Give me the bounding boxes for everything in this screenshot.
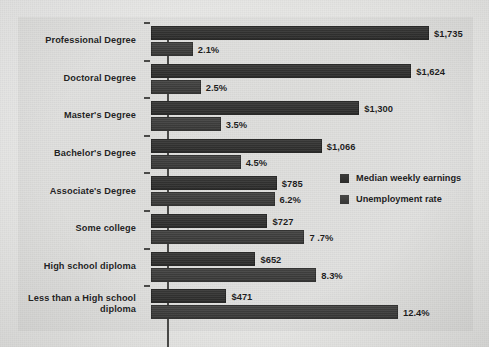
legend-swatch-icon-earnings [340, 174, 349, 183]
legend-item-unemployment-rate[interactable]: Unemployment rate [340, 194, 461, 204]
bar-median-weekly-earnings [151, 64, 411, 78]
bar-value-label-unemployment: 2.1% [198, 44, 219, 55]
chart-legend: Median weekly earnings Unemployment rate [340, 173, 461, 215]
bar-value-label-unemployment: 12.4% [403, 307, 430, 318]
axis-tick [144, 285, 150, 287]
bar-value-label-earnings: $1,066 [327, 141, 356, 152]
bar-value-label-unemployment: 6.2% [280, 194, 301, 205]
axis-tick [144, 135, 150, 137]
bar-unemployment-rate [151, 42, 193, 56]
bar-median-weekly-earnings [151, 252, 255, 266]
legend-swatch-icon-unemployment [340, 195, 349, 204]
bar-value-label-unemployment: 4.5% [246, 157, 267, 168]
axis-tick [144, 60, 150, 62]
legend-label-unemployment: Unemployment rate [356, 194, 442, 204]
axis-tick [144, 210, 150, 212]
bar-median-weekly-earnings [151, 101, 359, 115]
bar-unemployment-rate [151, 192, 275, 206]
bar-median-weekly-earnings [151, 139, 322, 153]
bar-value-label-earnings: $1,735 [434, 28, 463, 39]
bar-value-label-unemployment: 8.3% [321, 270, 342, 281]
category-label: Professional Degree [10, 35, 136, 47]
bar-value-label-unemployment: 3.5% [226, 119, 247, 130]
bar-unemployment-rate [151, 80, 201, 94]
bar-value-label-earnings: $1,624 [416, 66, 445, 77]
category-label: Doctoral Degree [10, 73, 136, 85]
bar-unemployment-rate [151, 230, 304, 244]
legend-label-earnings: Median weekly earnings [356, 173, 461, 183]
legend-item-median-weekly-earnings[interactable]: Median weekly earnings [340, 173, 461, 183]
category-label: Associate's Degree [10, 186, 136, 198]
bar-value-label-unemployment: 2.5% [206, 82, 227, 93]
bar-value-label-earnings: $471 [231, 291, 252, 302]
axis-tick [144, 172, 150, 174]
bar-median-weekly-earnings [151, 289, 226, 303]
bar-value-label-earnings: $1,300 [364, 103, 393, 114]
bar-unemployment-rate [151, 268, 316, 282]
bar-value-label-earnings: $652 [260, 254, 281, 265]
bar-unemployment-rate [151, 155, 241, 169]
category-label: Bachelor's Degree [10, 148, 136, 160]
category-label: Master's Degree [10, 110, 136, 122]
category-label: Some college [10, 223, 136, 235]
bar-value-label-earnings: $727 [272, 216, 293, 227]
axis-tick [144, 22, 150, 24]
bar-median-weekly-earnings [151, 176, 277, 190]
bar-unemployment-rate [151, 305, 398, 319]
axis-tick [144, 248, 150, 250]
bar-value-label-earnings: $785 [282, 178, 303, 189]
category-label: Less than a High school diploma [10, 293, 136, 316]
bar-value-label-unemployment: 7 .7% [309, 232, 333, 243]
axis-tick [144, 97, 150, 99]
bar-median-weekly-earnings [151, 26, 429, 40]
bar-median-weekly-earnings [151, 214, 267, 228]
category-label: High school diploma [10, 261, 136, 273]
bar-unemployment-rate [151, 117, 221, 131]
